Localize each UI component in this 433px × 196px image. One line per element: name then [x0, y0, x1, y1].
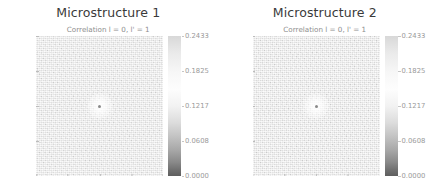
heatmap-axes: 250 125 0 -125 -250 -250 -125 0 125 250 — [36, 36, 163, 176]
colorbar-tick: 0.2433 — [181, 32, 209, 40]
colorbar-tick: 0.0000 — [181, 172, 209, 180]
panel-microstructure-1: Microstructure 1 Correlation l = 0, l' =… — [0, 0, 217, 196]
panel-title: Microstructure 1 — [0, 5, 217, 20]
colorbar-tick: 0.1825 — [181, 67, 209, 75]
colorbar-tick: 0.1217 — [181, 102, 209, 110]
colorbar: 0.2433 0.1825 0.1217 0.0608 0.0000 — [385, 36, 398, 176]
center-peak-marker — [98, 105, 101, 108]
colorbar: 0.2433 0.1825 0.1217 0.0608 0.0000 — [168, 36, 181, 176]
colorbar-tick: 0.0608 — [181, 137, 209, 145]
colorbar-tick: 0.1825 — [398, 67, 426, 75]
figure: Microstructure 1 Correlation l = 0, l' =… — [0, 0, 433, 196]
panel-microstructure-2: Microstructure 2 Correlation l = 0, l' =… — [217, 0, 433, 196]
colorbar-gradient — [385, 36, 398, 176]
colorbar-tick: 0.0608 — [398, 137, 426, 145]
panel-title: Microstructure 2 — [217, 5, 433, 20]
heatmap-axes: 250 125 0 -125 -250 -250 -125 0 125 250 — [253, 36, 380, 176]
colorbar-tick: 0.2433 — [398, 32, 426, 40]
colorbar-tick: 0.1217 — [398, 102, 426, 110]
center-peak-marker — [315, 105, 318, 108]
colorbar-tick: 0.0000 — [398, 172, 426, 180]
colorbar-gradient — [168, 36, 181, 176]
